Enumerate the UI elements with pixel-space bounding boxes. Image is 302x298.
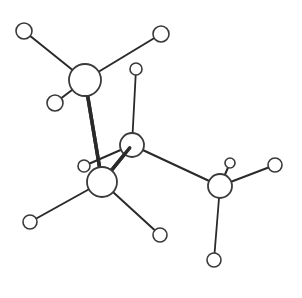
bond-foreground-c2-c3 [111, 148, 129, 171]
atom-c4-large [208, 174, 232, 198]
atom-c3-large [87, 167, 117, 197]
atom-h8-small [225, 158, 235, 168]
bond-foreground-c1-c3 [86, 85, 100, 167]
ball-and-stick-model [0, 0, 302, 298]
atom-h3-small [47, 95, 63, 111]
atom-h4-small [130, 63, 142, 75]
atom-h9-small [268, 158, 282, 172]
atom-h10-small [207, 253, 221, 267]
atom-h2-small [153, 26, 169, 42]
atom-h7-small [153, 228, 167, 242]
molecule-diagram [0, 0, 302, 298]
bond-c2-c4 [132, 145, 220, 186]
atoms-layer [16, 23, 282, 267]
atom-c1-large [69, 64, 101, 96]
bonds-layer [24, 31, 275, 260]
atom-h6-small [23, 215, 37, 229]
atom-h5-small [78, 160, 90, 172]
atom-h1-small [16, 23, 32, 39]
